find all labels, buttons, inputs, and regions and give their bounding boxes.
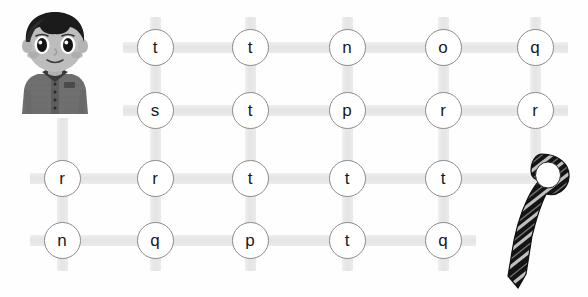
row-3-segment [172, 173, 234, 184]
worksheet-canvas: ttnoqstprrrrtttnqptq [0, 0, 588, 297]
letter-node-label: q [150, 231, 159, 248]
row-2-segment [460, 105, 519, 116]
row-2-segment [267, 105, 331, 116]
letter-node-label: p [342, 101, 351, 118]
letter-node-r2c4[interactable]: p [329, 92, 366, 129]
col-4-segment [342, 64, 353, 94]
letter-node-label: t [153, 38, 158, 55]
letter-node-r1c3[interactable]: t [232, 29, 269, 66]
row-4-right-stub [460, 235, 476, 246]
letter-node-r2c5[interactable]: r [425, 92, 462, 129]
letter-node-label: r [59, 169, 65, 186]
boy-shirt [22, 70, 88, 114]
col-3-segment [245, 127, 256, 162]
col-2-segment [150, 127, 161, 162]
row-1-segment [364, 42, 427, 53]
col-5-bottom-stub [438, 257, 449, 271]
letter-node-r4c1[interactable]: n [44, 222, 81, 259]
row-3-segment [267, 173, 331, 184]
col-5-segment [438, 64, 449, 94]
letter-node-r3c4[interactable]: t [329, 160, 366, 197]
col-3-segment [245, 195, 256, 224]
schoolboy-character [12, 8, 98, 120]
col-5-segment [438, 127, 449, 162]
letter-node-label: s [151, 101, 160, 118]
letter-node-r1c5[interactable]: o [425, 29, 462, 66]
letter-node-label: q [438, 231, 447, 248]
letter-node-r2c6[interactable]: r [517, 92, 554, 129]
letter-node-r1c6[interactable]: q [517, 29, 554, 66]
letter-node-r4c3[interactable]: p [232, 222, 269, 259]
letter-node-r4c4[interactable]: t [329, 222, 366, 259]
row-1-segment [172, 42, 234, 53]
letter-node-label: r [440, 101, 446, 118]
row-2-segment [172, 105, 234, 116]
row-1-segment [460, 42, 519, 53]
col-4-segment [342, 127, 353, 162]
col-1-segment [57, 195, 68, 224]
letter-node-label: t [345, 231, 350, 248]
col-4-segment [342, 195, 353, 224]
row-4-segment [79, 235, 139, 246]
letter-node-r3c3[interactable]: t [232, 160, 269, 197]
letter-node-label: t [248, 169, 253, 186]
row-2-segment [364, 105, 427, 116]
boy-head [22, 12, 88, 72]
row-4-segment [172, 235, 234, 246]
col-2-segment [150, 195, 161, 224]
letter-node-label: n [342, 38, 351, 55]
letter-node-label: t [345, 169, 350, 186]
col-6-segment [530, 64, 541, 94]
letter-node-label: r [152, 169, 158, 186]
row-4-segment [267, 235, 331, 246]
row-1-segment [267, 42, 331, 53]
letter-node-label: t [248, 101, 253, 118]
col-2-segment [150, 64, 161, 94]
letter-node-r4c5[interactable]: q [425, 222, 462, 259]
letter-node-label: n [57, 231, 66, 248]
col-3-bottom-stub [245, 257, 256, 271]
letter-node-r2c3[interactable]: t [232, 92, 269, 129]
row-2-right-stub [552, 105, 568, 116]
col-2-bottom-stub [150, 257, 161, 271]
letter-node-r4c2[interactable]: q [137, 222, 174, 259]
letter-node-label: q [530, 38, 539, 55]
row-1-right-stub [552, 42, 568, 53]
letter-node-label: t [441, 169, 446, 186]
letter-node-r3c1[interactable]: r [44, 160, 81, 197]
letter-node-r3c5[interactable]: t [425, 160, 462, 197]
letter-node-r2c2[interactable]: s [137, 92, 174, 129]
row-3-segment [364, 173, 427, 184]
col-4-bottom-stub [342, 257, 353, 271]
row-4-segment [364, 235, 427, 246]
row-3-segment [79, 173, 139, 184]
letter-node-label: o [438, 38, 447, 55]
letter-node-label: p [245, 231, 254, 248]
letter-node-r3c2[interactable]: r [137, 160, 174, 197]
letter-node-r1c2[interactable]: t [137, 29, 174, 66]
col-1-bottom-stub [57, 257, 68, 271]
letter-node-label: t [248, 38, 253, 55]
letter-node-label: r [532, 101, 538, 118]
col-3-segment [245, 64, 256, 94]
boy-entry-connector [57, 118, 68, 162]
col-5-segment [438, 195, 449, 224]
letter-node-r1c4[interactable]: n [329, 29, 366, 66]
striped-necktie [496, 150, 574, 290]
